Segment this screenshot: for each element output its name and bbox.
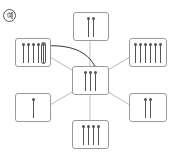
box-bottom-right	[129, 93, 167, 122]
box-top-right	[129, 38, 167, 67]
box-bottom	[72, 120, 109, 149]
box-center	[72, 66, 109, 95]
box-top	[73, 12, 109, 41]
highlighted-stick	[42, 43, 45, 63]
box-bottom-left	[15, 93, 51, 122]
arrow-path	[46, 46, 95, 67]
box-top-left	[15, 38, 51, 67]
